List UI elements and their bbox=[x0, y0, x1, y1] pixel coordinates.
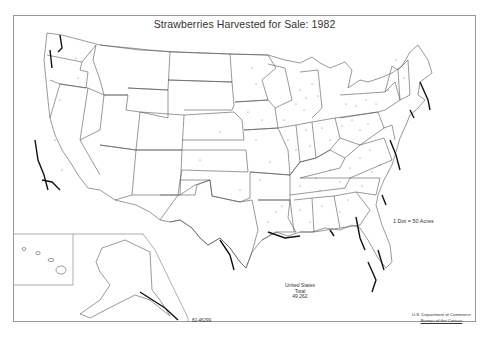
state-boundaries bbox=[44, 33, 432, 268]
dot-legend: 1 Dot = 50 Acres bbox=[393, 218, 434, 224]
credit-line2: Bureau of the Census bbox=[412, 318, 471, 324]
scattered-dots bbox=[55, 52, 405, 223]
total-value: 49,262 bbox=[278, 294, 322, 300]
map-title: Strawberries Harvested for Sale: 1982 bbox=[0, 18, 489, 30]
us-map bbox=[0, 0, 489, 339]
dot-clusters bbox=[35, 35, 430, 292]
alaska-inset bbox=[80, 240, 178, 320]
credit: U.S. Department of Commerce Bureau of th… bbox=[412, 312, 471, 323]
map-code: 82-46299 bbox=[192, 318, 211, 323]
us-total: United States Total 49,262 bbox=[278, 283, 322, 300]
credit-line1: U.S. Department of Commerce bbox=[412, 312, 471, 318]
inset-boxes bbox=[14, 234, 188, 322]
hawaii-inset bbox=[22, 248, 66, 275]
